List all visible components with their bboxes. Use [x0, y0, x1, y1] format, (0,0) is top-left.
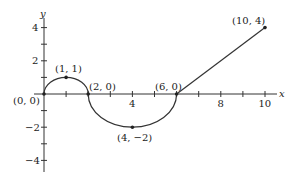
tick-label-x4: 4 [129, 98, 135, 109]
linear-segment [177, 28, 265, 94]
y-axis-label: y [39, 8, 46, 19]
data-points [42, 26, 267, 129]
tick-label-y2: 2 [32, 55, 38, 66]
point-label-0-0: (0, 0) [13, 95, 40, 106]
point-label-1-1: (1, 1) [55, 63, 82, 74]
point-4-neg2 [131, 125, 135, 129]
point-10-4 [263, 26, 267, 30]
function-graph: x y 4 8 10 4 2 −2 −4 (0, 0) (1, 1) (2, 0… [0, 0, 297, 184]
point-1-1 [64, 76, 68, 80]
point-label-4-neg2: (4, −2) [117, 132, 152, 143]
point-label-10-4: (10, 4) [232, 15, 265, 26]
point-label-6-0: (6, 0) [155, 81, 182, 92]
point-label-2-0: (2, 0) [89, 81, 116, 92]
tick-label-yneg4: −4 [25, 155, 40, 166]
function-curve [44, 28, 265, 128]
axes [34, 18, 277, 172]
point-2-0 [86, 92, 90, 96]
tick-label-x8: 8 [218, 98, 224, 109]
tick-label-x10: 10 [259, 98, 272, 109]
point-0-0 [42, 92, 46, 96]
tick-label-y4: 4 [32, 22, 38, 33]
point-6-0 [175, 92, 179, 96]
x-axis-label: x [279, 88, 285, 99]
tick-label-yneg2: −2 [25, 122, 40, 133]
